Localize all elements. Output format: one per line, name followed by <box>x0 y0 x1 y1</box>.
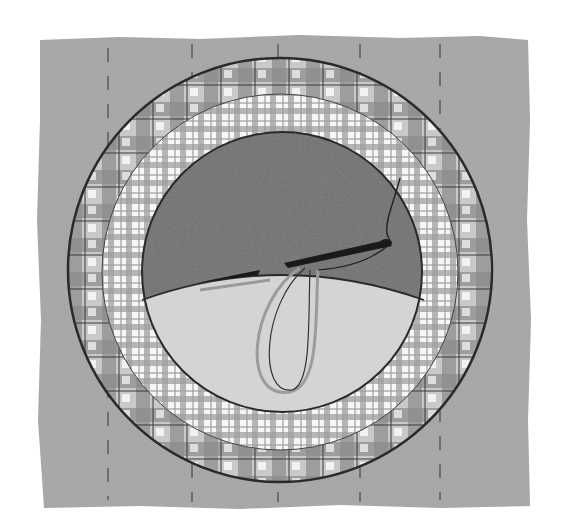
embroidery-hoop-illustration <box>0 0 561 528</box>
